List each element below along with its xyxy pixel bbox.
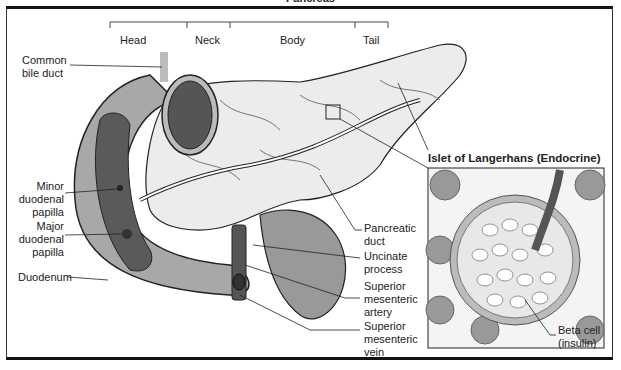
region-label-head: Head: [120, 34, 146, 47]
inset-title: Islet of Langerhans (Endocrine): [428, 152, 601, 164]
major-papilla: [122, 229, 132, 239]
label-pancreatic-duct: Pancreatic duct: [364, 222, 422, 248]
label-beta-cell: Beta cell (insulin): [558, 324, 602, 350]
region-bracket: [110, 22, 388, 28]
pancreas-illustration: [0, 0, 621, 370]
islet-inset: [426, 168, 605, 348]
label-common-bile-duct: Common bile duct: [22, 54, 72, 80]
label-duodenum: Duodenum: [18, 271, 72, 284]
label-major-papilla: Major duodenal papilla: [8, 220, 64, 259]
label-sma: Superior mesenteric artery: [364, 280, 422, 319]
minor-papilla: [117, 185, 123, 191]
label-minor-papilla: Minor duodenal papilla: [8, 180, 64, 219]
label-uncinate-process: Uncinate process: [364, 250, 422, 276]
region-label-tail: Tail: [363, 34, 380, 47]
label-smv: Superior mesenteric vein: [364, 320, 422, 359]
region-label-body: Body: [280, 34, 305, 47]
region-label-neck: Neck: [195, 34, 220, 47]
